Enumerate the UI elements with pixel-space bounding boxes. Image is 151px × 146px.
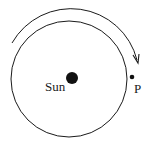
- point-p-label: P: [134, 81, 141, 96]
- orbit-diagram: Sun P: [0, 0, 151, 146]
- direction-arrow-arc: [12, 9, 137, 60]
- sun-dot: [66, 72, 78, 84]
- sun-label: Sun: [45, 79, 66, 94]
- point-p-dot: [130, 75, 135, 80]
